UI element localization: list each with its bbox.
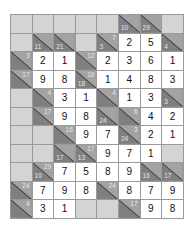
- blocked-cell: [33, 15, 55, 34]
- across-sum: 16: [66, 127, 73, 134]
- clue-cell: 2910: [33, 163, 55, 182]
- entry-cell[interactable]: 7: [33, 182, 55, 201]
- down-sum: 10: [121, 25, 128, 32]
- clue-cell: 3: [11, 52, 33, 71]
- blocked-cell: [76, 200, 98, 219]
- clue-cell: 17: [11, 71, 33, 90]
- entry-cell[interactable]: 9: [141, 200, 163, 219]
- across-sum: 17: [22, 72, 29, 79]
- entry-cell[interactable]: 9: [119, 163, 141, 182]
- across-sum: 17: [44, 109, 51, 116]
- entry-cell[interactable]: 2: [162, 108, 184, 127]
- clue-cell: 4: [97, 89, 119, 108]
- down-sum: 17: [56, 155, 63, 162]
- blocked-cell: [97, 15, 119, 34]
- clue-cell: 3: [162, 89, 184, 108]
- entry-cell[interactable]: 2: [33, 52, 55, 71]
- entry-cell[interactable]: 2: [119, 34, 141, 53]
- clue-cell: 16: [54, 126, 76, 145]
- entry-cell[interactable]: 1: [162, 52, 184, 71]
- blocked-cell: [162, 15, 184, 34]
- down-sum: 11: [35, 44, 42, 51]
- across-sum: 3: [134, 127, 138, 134]
- blocked-cell: [162, 145, 184, 164]
- across-sum: 24: [109, 183, 116, 190]
- entry-cell[interactable]: 7: [119, 145, 141, 164]
- across-sum: 17: [87, 146, 94, 153]
- entry-cell[interactable]: 1: [54, 200, 76, 219]
- entry-cell[interactable]: 8: [76, 182, 98, 201]
- entry-cell[interactable]: 9: [76, 126, 98, 145]
- clue-cell: 17: [119, 200, 141, 219]
- down-sum: 24: [121, 136, 128, 143]
- across-sum: 4: [26, 201, 30, 208]
- clue-cell: 73: [97, 34, 119, 53]
- across-sum: 24: [22, 183, 29, 190]
- blocked-cell: [33, 145, 55, 164]
- kakuro-grid: 1029112173254321122361179816181483431413…: [10, 14, 184, 219]
- blocked-cell: [11, 163, 33, 182]
- entry-cell[interactable]: 2: [141, 126, 163, 145]
- clue-cell: 29: [141, 15, 163, 34]
- entry-cell[interactable]: 9: [54, 108, 76, 127]
- entry-cell[interactable]: 8: [119, 182, 141, 201]
- across-sum: 3: [26, 53, 30, 60]
- entry-cell[interactable]: 2: [97, 52, 119, 71]
- entry-cell[interactable]: 3: [162, 71, 184, 90]
- entry-cell[interactable]: 1: [141, 145, 163, 164]
- entry-cell[interactable]: 8: [162, 200, 184, 219]
- clue-cell: 17: [162, 163, 184, 182]
- entry-cell[interactable]: 7: [141, 182, 163, 201]
- down-sum: 18: [78, 81, 85, 88]
- clue-cell: 21: [54, 34, 76, 53]
- entry-cell[interactable]: 1: [97, 71, 119, 90]
- entry-cell[interactable]: 3: [119, 52, 141, 71]
- across-sum: 7: [112, 35, 116, 42]
- clue-cell: 17: [54, 145, 76, 164]
- across-sum: 16: [87, 72, 94, 79]
- entry-cell[interactable]: 7: [54, 163, 76, 182]
- down-sum: 29: [143, 25, 150, 32]
- entry-cell[interactable]: 5: [76, 163, 98, 182]
- across-sum: 4: [112, 90, 116, 97]
- entry-cell[interactable]: 3: [54, 89, 76, 108]
- clue-cell: 24: [97, 182, 119, 201]
- clue-cell: 16: [141, 163, 163, 182]
- clue-cell: 24: [97, 108, 119, 127]
- blocked-cell: [11, 15, 33, 34]
- clue-cell: 12: [76, 52, 98, 71]
- entry-cell[interactable]: 6: [141, 52, 163, 71]
- entry-cell[interactable]: 5: [141, 34, 163, 53]
- blocked-cell: [11, 108, 33, 127]
- entry-cell[interactable]: 8: [141, 71, 163, 90]
- entry-cell[interactable]: 8: [54, 71, 76, 90]
- entry-cell[interactable]: 8: [76, 108, 98, 127]
- entry-cell[interactable]: 4: [119, 71, 141, 90]
- entry-cell[interactable]: 9: [54, 182, 76, 201]
- blocked-cell: [97, 200, 119, 219]
- down-sum: 16: [143, 173, 150, 180]
- down-sum: 4: [164, 44, 168, 51]
- across-sum: 29: [44, 164, 51, 171]
- entry-cell[interactable]: 9: [33, 71, 55, 90]
- entry-cell[interactable]: 9: [97, 145, 119, 164]
- clue-cell: 11: [33, 34, 55, 53]
- down-sum: 13: [78, 155, 85, 162]
- clue-cell: 4: [33, 89, 55, 108]
- entry-cell[interactable]: 7: [97, 126, 119, 145]
- entry-cell[interactable]: 1: [162, 126, 184, 145]
- entry-cell[interactable]: 1: [54, 52, 76, 71]
- entry-cell[interactable]: 1: [119, 89, 141, 108]
- entry-cell[interactable]: 3: [33, 200, 55, 219]
- entry-cell[interactable]: 1: [76, 89, 98, 108]
- blocked-cell: [11, 89, 33, 108]
- across-sum: 17: [130, 201, 137, 208]
- across-sum: 4: [48, 90, 52, 97]
- entry-cell[interactable]: 9: [162, 182, 184, 201]
- blocked-cell: [33, 126, 55, 145]
- entry-cell[interactable]: 3: [141, 89, 163, 108]
- entry-cell[interactable]: 4: [141, 108, 163, 127]
- entry-cell[interactable]: 8: [97, 163, 119, 182]
- clue-cell: 10: [119, 15, 141, 34]
- clue-cell: 1618: [76, 71, 98, 90]
